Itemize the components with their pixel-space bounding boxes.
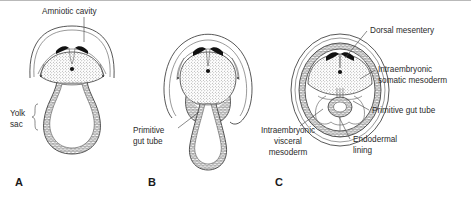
embryology-figure: Amniotic cavity Yolk sac A Primitive gut: [0, 0, 471, 204]
intraembryonic-mesoderm-b: [180, 52, 236, 104]
label-visceral-mesoderm-line3: mesoderm: [269, 148, 308, 157]
label-yolk-sac-line2: sac: [10, 120, 23, 129]
label-dorsal-mesentery: Dorsal mesentery: [370, 26, 435, 35]
label-somatic-mesoderm-line1: Intraembryonic: [378, 65, 432, 74]
label-somatic-mesoderm-line2: somatic mesoderm: [378, 76, 447, 85]
panel-letter-c: C: [275, 176, 283, 188]
label-primitive-gut-tube-c: Primitive gut tube: [372, 106, 436, 115]
notochord-c: [338, 70, 342, 74]
notochord-b: [206, 69, 210, 73]
gut-lumen-c: [334, 102, 347, 112]
notochord-a: [70, 67, 74, 71]
figure-canvas: Amniotic cavity Yolk sac A Primitive gut: [0, 0, 471, 204]
label-primitive-gut-tube-b-line1: Primitive: [133, 126, 165, 135]
panel-letter-b: B: [148, 176, 156, 188]
panel-letter-a: A: [15, 176, 23, 188]
label-visceral-mesoderm-line2: visceral: [274, 137, 302, 146]
label-primitive-gut-tube-b-line2: gut tube: [133, 137, 163, 146]
label-endodermal-lining-line2: lining: [353, 146, 373, 155]
label-endodermal-lining-line1: Endodermal: [353, 135, 397, 144]
label-yolk-sac-line1: Yolk: [10, 109, 26, 118]
label-visceral-mesoderm-line1: Intraembryonic: [261, 126, 315, 135]
label-amniotic-cavity: Amniotic cavity: [42, 7, 98, 16]
